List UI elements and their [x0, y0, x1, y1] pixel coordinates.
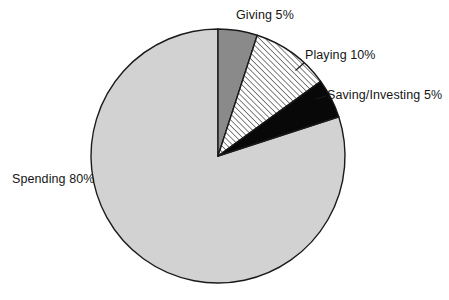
pie-chart-svg	[0, 0, 449, 300]
pie-label-saving-investing: Saving/Investing 5%	[327, 88, 442, 102]
pie-label-spending: Spending 80%	[12, 172, 95, 186]
pie-label-giving: Giving 5%	[236, 8, 294, 22]
pie-chart-figure: Giving 5% Playing 10% Saving/Investing 5…	[0, 0, 449, 300]
pie-label-playing: Playing 10%	[305, 48, 376, 62]
